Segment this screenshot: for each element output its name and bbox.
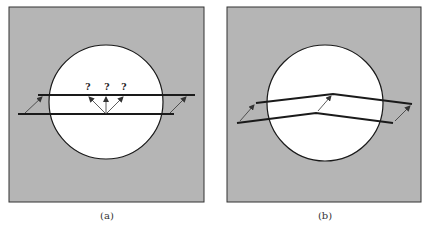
panel-b-caption: (b)	[318, 210, 332, 221]
panel-a: ? ? ?	[9, 7, 204, 202]
panel-a-question-mark-left: ?	[85, 82, 90, 92]
panel-b	[227, 7, 421, 202]
figure-canvas: ? ? ?	[0, 0, 425, 232]
panel-a-question-mark-center: ?	[104, 82, 109, 92]
panel-a-question-mark-right: ?	[121, 82, 126, 92]
panel-a-caption: (a)	[100, 210, 114, 221]
